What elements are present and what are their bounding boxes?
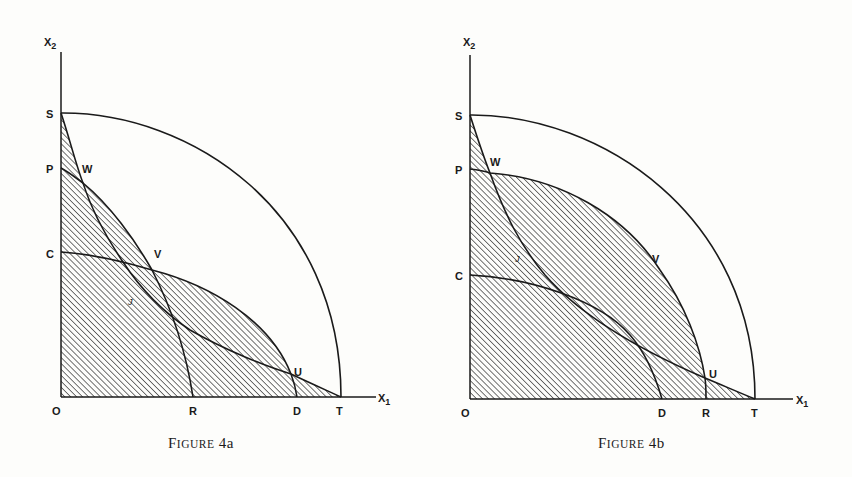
figure-4b: X2 X1 S P C O W V J U R D T FIGURE 4b <box>455 36 808 451</box>
axis-label-x1-4a: X1 <box>378 392 390 407</box>
point-label-O-4a: O <box>52 405 61 417</box>
point-label-J-4b: J <box>514 254 520 264</box>
point-label-S-4b: S <box>455 110 462 122</box>
point-label-R-4a: R <box>189 405 197 417</box>
axis-label-x2-4b: X2 <box>463 36 475 51</box>
figure-4a: X2 X1 S P C O W V J U R D T FIGURE 4a <box>44 36 390 451</box>
point-label-V-4a: V <box>154 248 162 260</box>
point-label-U-4a: U <box>294 366 302 378</box>
point-label-P-4b: P <box>455 164 462 176</box>
point-label-D-4a: D <box>293 405 301 417</box>
point-label-D-4b: D <box>658 407 666 419</box>
point-label-W-4b: W <box>490 156 501 168</box>
point-label-R-4b: R <box>702 407 710 419</box>
point-label-P-4a: P <box>46 163 53 175</box>
point-label-V-4b: V <box>652 253 660 265</box>
shaded-region-4b <box>470 115 755 399</box>
point-label-C-4a: C <box>46 248 54 260</box>
point-label-W-4a: W <box>82 163 93 175</box>
point-label-O-4b: O <box>461 407 470 419</box>
point-label-C-4b: C <box>455 270 463 282</box>
caption-4a: FIGURE 4a <box>168 435 234 451</box>
axis-label-x2-4a: X2 <box>44 36 56 51</box>
shaded-region-4a <box>61 113 341 397</box>
caption-4b: FIGURE 4b <box>598 435 665 451</box>
point-label-T-4a: T <box>336 405 343 417</box>
axis-label-x1-4b: X1 <box>796 394 808 409</box>
point-label-S-4a: S <box>46 108 53 120</box>
figure-canvas: X2 X1 S P C O W V J U R D T FIGURE 4a X2… <box>0 0 852 477</box>
point-label-U-4b: U <box>709 368 717 380</box>
point-label-T-4b: T <box>751 407 758 419</box>
point-label-J-4a: J <box>127 297 133 307</box>
